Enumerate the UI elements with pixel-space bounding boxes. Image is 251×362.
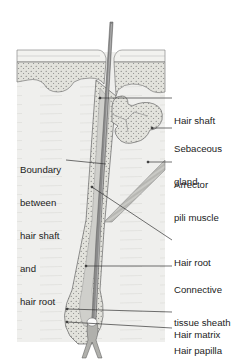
label-boundary: Boundary between hair shaft and hair roo… (20, 142, 61, 318)
label-arrector-pili: Arrector pili muscle (174, 157, 219, 234)
label-hair-papilla: Hair papilla (174, 323, 222, 362)
